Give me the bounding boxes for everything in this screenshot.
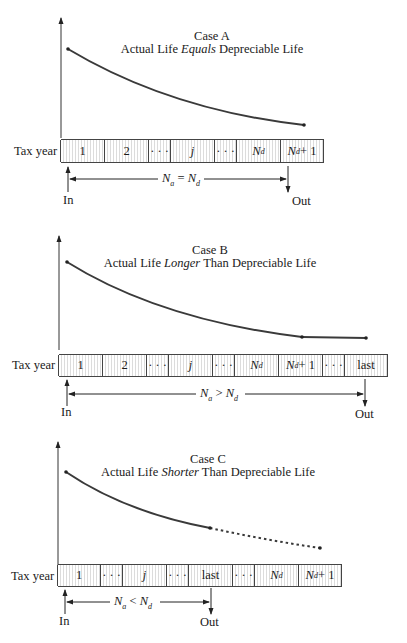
case-b-in-label: In	[61, 405, 71, 420]
case-b-subtitle: Actual Life Longer Than Depreciable Life	[60, 257, 360, 270]
case-c-tax-year-label: Tax year	[11, 569, 54, 584]
case-a-cell-nd-plus-1: Nd + 1	[281, 140, 324, 162]
case-c-cell-ellipsis-1: · · ·	[101, 565, 123, 586]
case-a-cell-j: j	[171, 140, 215, 162]
case-b-cell-nd: Nd	[235, 355, 279, 376]
case-b-book-value-curve	[67, 262, 302, 337]
case-a-cell-1: 1	[60, 140, 105, 162]
case-b-cell-ellipsis-2: · · ·	[213, 355, 235, 376]
case-c-book-value-curve	[66, 472, 210, 528]
case-c-dotted-continuation	[210, 528, 320, 548]
case-c-in-label: In	[59, 614, 69, 629]
case-c-cell-nd-plus-1: Nd + 1	[299, 565, 342, 586]
case-a-cell-ellipsis-2: · · ·	[215, 140, 237, 162]
case-a-in-label: In	[63, 193, 73, 208]
case-a-tax-year-label: Tax year	[14, 144, 57, 159]
case-a-tax-year-bar: 1 2 · · · j · · · Nd Nd + 1	[61, 139, 324, 163]
case-b-cell-ellipsis-1: · · ·	[147, 355, 169, 376]
case-c-cell-ellipsis-3: · · ·	[233, 565, 255, 586]
case-b-tax-year-bar: 1 2 · · · j · · · Nd Nd + 1 · · · last	[59, 354, 388, 377]
case-b-cell-last: last	[345, 355, 388, 376]
case-b-span-label: Na > Nd	[196, 386, 242, 403]
case-a-cell-ellipsis-1: · · ·	[149, 140, 171, 162]
case-a-out-label: Out	[292, 194, 311, 209]
case-b-out-label: Out	[355, 407, 374, 422]
case-b-cell-j: j	[169, 355, 213, 376]
case-c-title: Case C Actual Life Shorter Than Deprecia…	[58, 453, 358, 479]
diagram-graphics	[0, 0, 407, 643]
clipped-figure-caption	[80, 636, 400, 643]
case-c-span-label: Na < Nd	[110, 594, 156, 611]
case-a-cell-nd: Nd	[237, 140, 281, 162]
case-a-book-value-curve	[68, 49, 304, 125]
case-c-cell-j: j	[123, 565, 167, 586]
case-b-cell-2: 2	[103, 355, 147, 376]
case-c-cell-nd: Nd	[255, 565, 299, 586]
case-b-title: Case B Actual Life Longer Than Depreciab…	[60, 244, 360, 270]
case-a-span-label: Na = Nd	[158, 171, 204, 188]
case-a-subtitle: Actual Life Equals Depreciable Life	[62, 43, 362, 56]
case-a-cell-2: 2	[105, 140, 149, 162]
case-b-cell-ellipsis-3: · · ·	[323, 355, 345, 376]
case-c-cell-last: last	[189, 565, 233, 586]
case-c-tax-year-bar: 1 · · · j · · · last · · · Nd Nd + 1	[58, 564, 342, 587]
case-b-cell-1: 1	[58, 355, 103, 376]
case-b-flat-segment	[302, 337, 366, 338]
case-c-cell-1: 1	[57, 565, 101, 586]
case-b-cell-nd-plus-1: Nd + 1	[279, 355, 323, 376]
case-a-title: Case A Actual Life Equals Depreciable Li…	[62, 30, 362, 56]
case-c-out-label: Out	[200, 615, 219, 630]
case-b-tax-year-label: Tax year	[12, 358, 55, 373]
case-c-cell-ellipsis-2: · · ·	[167, 565, 189, 586]
case-c-subtitle: Actual Life Shorter Than Depreciable Lif…	[58, 466, 358, 479]
